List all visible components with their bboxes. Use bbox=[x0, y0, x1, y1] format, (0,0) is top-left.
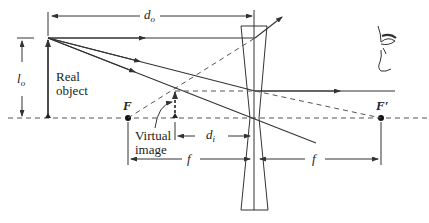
label-focal-length-right: f bbox=[312, 152, 316, 166]
virtual-image-pointer bbox=[155, 102, 172, 128]
label-object-distance: do bbox=[144, 8, 155, 26]
label-object-height: lo bbox=[17, 72, 25, 90]
label-focal-length-left: f bbox=[187, 152, 191, 166]
object-base-marker bbox=[45, 113, 51, 118]
image-base-marker bbox=[172, 113, 178, 118]
label-focal-point-F: F bbox=[123, 99, 132, 113]
label-image-distance: di bbox=[206, 128, 215, 146]
label-focal-point-F-prime: F′ bbox=[376, 99, 388, 113]
label-real-object: Real object bbox=[56, 70, 88, 98]
label-virtual-image: Virtual image bbox=[135, 129, 171, 157]
ray-diagram bbox=[0, 0, 429, 223]
eye-icon bbox=[378, 26, 396, 71]
